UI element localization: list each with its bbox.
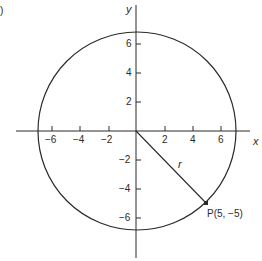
x-tick-label: 4: [190, 134, 196, 145]
x-tick-label: −4: [73, 134, 85, 145]
x-tick-label: 6: [218, 134, 224, 145]
circle-diagram: ) −6 −4 −2 2 4 6 6 4 2 −2 −4 −6 x y r P(…: [0, 0, 262, 261]
x-tick-label: −6: [45, 134, 57, 145]
y-tick-label: −6: [119, 212, 131, 223]
y-axis-label: y: [125, 3, 133, 15]
y-tick-label: 4: [126, 67, 132, 78]
x-tick-label: 2: [162, 134, 168, 145]
y-tick-label: −4: [119, 183, 131, 194]
y-tick-label: 2: [126, 96, 132, 107]
x-axis-label: x: [252, 135, 259, 147]
figure-corner-label: ): [0, 5, 3, 16]
y-tick-label: 6: [126, 38, 132, 49]
y-tick-label: −2: [119, 154, 131, 165]
point-p-marker: [204, 201, 208, 205]
radius-label: r: [178, 158, 183, 170]
x-tick-label: −2: [101, 134, 113, 145]
point-p-label: P(5, −5): [207, 208, 243, 219]
